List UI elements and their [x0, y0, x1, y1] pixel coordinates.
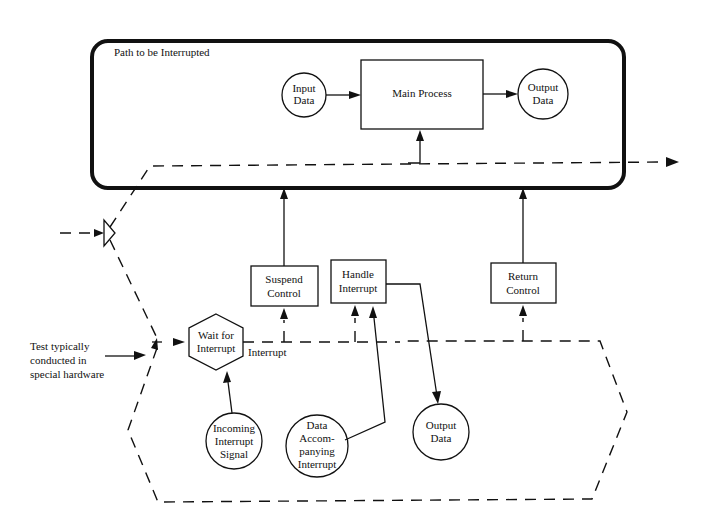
arrowhead-icon — [666, 157, 679, 167]
handle-to-output-connector — [386, 284, 437, 396]
svg-text:Output: Output — [528, 81, 559, 93]
main-process-node: Main Process — [361, 60, 483, 129]
incoming-interrupt-signal-node: Incoming Interrupt Signal — [206, 413, 262, 469]
arrowhead-icon — [519, 305, 527, 316]
interrupt-flow-diagram: Path to be Interrupted Input Data Main P… — [0, 0, 705, 527]
svg-text:Main Process: Main Process — [392, 87, 452, 99]
output-data-bottom-node: Output Data — [413, 404, 469, 460]
normal-control-path — [110, 162, 665, 227]
svg-text:Data: Data — [294, 94, 315, 106]
svg-text:Signal: Signal — [220, 448, 248, 460]
arrowhead-icon — [134, 351, 146, 360]
interrupt-label: Interrupt — [248, 346, 286, 358]
svg-text:panying: panying — [299, 445, 335, 457]
arrowhead-icon — [369, 306, 377, 318]
interrupt-branch-path — [110, 240, 157, 338]
svg-text:Handle: Handle — [342, 268, 374, 280]
output-data-top-node: Output Data — [518, 69, 568, 119]
return-control-node: Return Control — [491, 263, 556, 303]
svg-text:Return: Return — [508, 270, 538, 282]
svg-text:Control: Control — [506, 284, 540, 296]
arrowhead-icon — [173, 338, 185, 346]
arrowhead-icon — [351, 305, 359, 316]
svg-text:Wait for: Wait for — [198, 329, 234, 341]
arrowhead-icon — [432, 391, 441, 404]
signal-to-wait-connector — [228, 382, 232, 413]
svg-text:Interrupt: Interrupt — [298, 458, 336, 470]
test-note: Test typically conducted in special hard… — [30, 340, 104, 380]
svg-text:Interrupt: Interrupt — [215, 435, 253, 447]
handle-interrupt-node: Handle Interrupt — [331, 260, 386, 303]
diagram-canvas: Path to be Interrupted Input Data Main P… — [0, 0, 705, 527]
arrowhead-icon — [416, 130, 424, 141]
arrowhead-icon — [94, 229, 104, 237]
svg-text:Data: Data — [533, 94, 554, 106]
container-title: Path to be Interrupted — [114, 46, 210, 58]
svg-text:Output: Output — [426, 419, 457, 431]
decision-triangle-icon — [104, 220, 115, 246]
arrowhead-icon — [223, 371, 231, 383]
svg-text:Data: Data — [307, 419, 328, 431]
svg-text:Incoming: Incoming — [213, 422, 256, 434]
svg-text:Input: Input — [292, 82, 315, 94]
svg-text:Accom-: Accom- — [299, 432, 335, 444]
interrupt-region-outline — [128, 341, 627, 502]
svg-text:Interrupt: Interrupt — [197, 342, 235, 354]
arrowhead-icon — [349, 91, 361, 99]
svg-text:special hardware: special hardware — [30, 368, 104, 380]
svg-text:conducted in: conducted in — [30, 354, 87, 366]
arrowhead-icon — [280, 308, 288, 319]
svg-text:Control: Control — [267, 287, 301, 299]
input-data-node: Input Data — [282, 73, 326, 117]
svg-text:Interrupt: Interrupt — [339, 282, 377, 294]
main-process-control-tap — [408, 141, 420, 163]
data-to-handle-connector — [345, 318, 385, 440]
data-accompanying-interrupt-node: Data Accom- panying Interrupt — [286, 415, 348, 477]
wait-for-interrupt-node: Wait for Interrupt — [189, 314, 243, 370]
svg-text:Test typically: Test typically — [30, 340, 90, 352]
suspend-control-node: Suspend Control — [251, 266, 318, 306]
arrowhead-icon — [506, 90, 518, 98]
svg-text:Suspend: Suspend — [265, 273, 303, 285]
svg-text:Data: Data — [431, 432, 452, 444]
